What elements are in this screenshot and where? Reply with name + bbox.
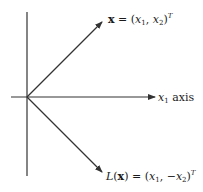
vector-lx-label: L(x) = (x1, −x2)T	[106, 171, 196, 182]
vector-lx-arrow	[27, 97, 102, 172]
vector-x-label: x = (x1, x2)T	[108, 14, 172, 25]
axis-label: x1 axis	[158, 92, 194, 103]
vector-x-arrow	[27, 22, 102, 97]
